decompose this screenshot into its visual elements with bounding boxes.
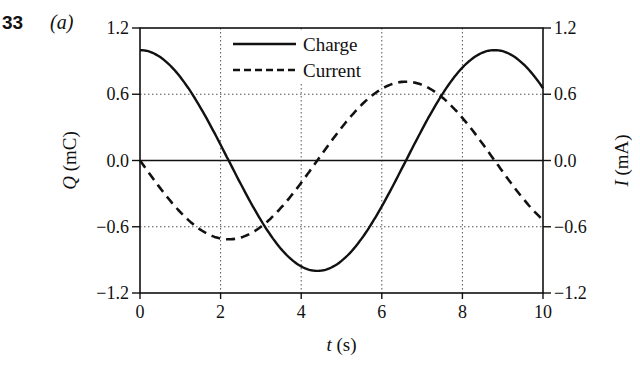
left-tick-label: 1.2 bbox=[107, 18, 130, 38]
bottom-tick-label: 0 bbox=[136, 302, 145, 322]
left-tick-label: −1.2 bbox=[96, 283, 129, 303]
legend: ChargeCurrent bbox=[226, 30, 380, 84]
bottom-tick-label: 2 bbox=[216, 302, 225, 322]
left-tick-label: −0.6 bbox=[96, 217, 129, 237]
left-tick-label: 0.6 bbox=[107, 84, 130, 104]
right-axis-title: I (mA) bbox=[611, 134, 633, 187]
axis-titles: t (s)Q (mC)I (mA) bbox=[59, 131, 633, 356]
chart: 1.20.60.0−0.6−1.21.20.60.0−0.6−1.2024681… bbox=[0, 0, 640, 372]
right-tick-label: 0.6 bbox=[554, 84, 577, 104]
bottom-tick-label: 8 bbox=[458, 302, 467, 322]
left-tick-label: 0.0 bbox=[107, 151, 130, 171]
bottom-tick-label: 4 bbox=[297, 302, 306, 322]
bottom-tick-label: 6 bbox=[377, 302, 386, 322]
right-tick-label: 1.2 bbox=[554, 18, 577, 38]
legend-label-current: Current bbox=[303, 60, 362, 81]
left-axis-title: Q (mC) bbox=[59, 131, 81, 190]
right-tick-label: 0.0 bbox=[554, 151, 577, 171]
legend-label-charge: Charge bbox=[303, 34, 358, 55]
right-tick-label: −0.6 bbox=[554, 217, 587, 237]
bottom-tick-label: 10 bbox=[534, 302, 552, 322]
right-tick-label: −1.2 bbox=[554, 283, 587, 303]
x-axis-title: t (s) bbox=[326, 334, 356, 356]
